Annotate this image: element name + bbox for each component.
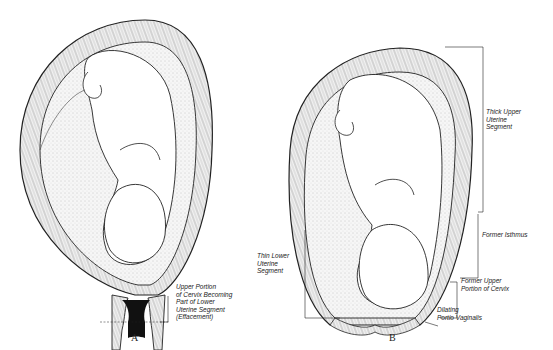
label-thick-upper-uterine-segment: Thick Upper Uterine Segment bbox=[486, 108, 521, 131]
label-effacement: Upper Portion of Cervix Becoming Part of… bbox=[176, 283, 232, 321]
panel-b-uterus bbox=[289, 47, 483, 335]
label-former-upper-portion-of-cervix: Former Upper Portion of Cervix bbox=[461, 277, 509, 292]
label-former-isthmus: Former Isthmus bbox=[482, 231, 528, 239]
label-thin-lower-uterine-segment: Thin Lower Uterine Segment bbox=[257, 252, 289, 275]
panel-b-caption: B bbox=[389, 332, 396, 343]
label-dilating-portio-vaginalis: Dilating Portio Vaginalis bbox=[437, 306, 482, 321]
panel-a-caption: A bbox=[131, 332, 138, 343]
uterus-diagram bbox=[0, 0, 553, 350]
